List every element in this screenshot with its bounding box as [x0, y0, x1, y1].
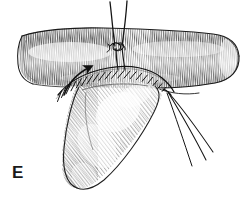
free-strand-1	[168, 92, 213, 152]
free-suture-strands	[163, 89, 213, 166]
figure-container: E	[0, 0, 249, 198]
anastomosis-illustration	[0, 0, 249, 198]
free-strand-3	[167, 93, 192, 166]
panel-label: E	[12, 164, 24, 181]
